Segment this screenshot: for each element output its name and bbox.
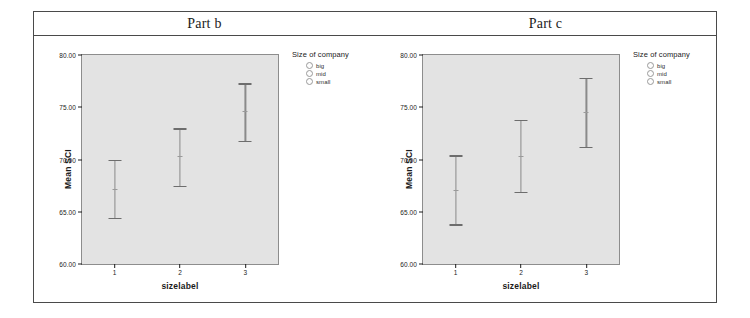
- error-bar-upper-cap: [239, 83, 252, 84]
- error-bar-lower-cap: [174, 186, 187, 187]
- plot-area-b: 60.0065.0070.0075.0080.00123: [81, 54, 279, 265]
- y-axis-tick-mark: [78, 159, 82, 160]
- legend-item-mid[interactable]: mid: [306, 70, 349, 77]
- legend-item-mid[interactable]: mid: [647, 70, 690, 77]
- y-axis-tick: 60.00: [59, 261, 82, 268]
- chart-panel-part-c: Mean SCI 60.0065.0070.0075.0080.00123 si…: [375, 36, 716, 302]
- error-bar-upper-cap: [515, 120, 528, 121]
- y-axis-tick: 75.00: [400, 104, 423, 111]
- chart-title-part-b: Part b: [34, 12, 375, 35]
- error-bar-upper-cap: [449, 155, 462, 156]
- y-axis-tick-label: 65.00: [400, 208, 417, 215]
- x-axis-tick-label: 3: [585, 269, 589, 276]
- legend-label: big: [657, 63, 665, 69]
- legend-label: small: [657, 79, 672, 85]
- x-axis-tick-mark: [521, 264, 522, 268]
- error-bar-mean-marker: [178, 156, 183, 157]
- x-axis-tick-mark: [455, 264, 456, 268]
- chart-titles-bar: Part b Part c: [34, 12, 716, 36]
- y-axis-tick-label: 65.00: [59, 208, 76, 215]
- x-axis-tick: 3: [585, 264, 589, 276]
- legend-label: small: [316, 79, 331, 85]
- error-bar-lower-cap: [580, 147, 593, 148]
- legend-b: Size of company big mid small: [292, 50, 349, 86]
- x-axis-tick-mark: [180, 264, 181, 268]
- error-bar: [238, 55, 252, 264]
- x-axis-tick-label: 2: [178, 269, 182, 276]
- error-bar: [108, 55, 122, 264]
- charts-row: Mean SCI 60.0065.0070.0075.0080.00123 si…: [34, 36, 716, 302]
- y-axis-tick-label: 80.00: [59, 52, 76, 59]
- error-bar: [449, 55, 463, 264]
- legend-label: big: [316, 63, 324, 69]
- y-axis-tick-label: 70.00: [59, 156, 76, 163]
- y-axis-tick-label: 60.00: [59, 261, 76, 268]
- error-bar-upper-cap: [174, 128, 187, 129]
- errorbar-chart-b: Mean SCI 60.0065.0070.0075.0080.00123 si…: [34, 36, 375, 302]
- legend-title: Size of company: [633, 50, 690, 59]
- error-bar-lower-cap: [108, 218, 121, 219]
- y-axis-tick-mark: [419, 211, 423, 212]
- y-axis-tick-mark: [419, 264, 423, 265]
- y-axis-tick-label: 70.00: [400, 156, 417, 163]
- error-bar-upper-cap: [580, 78, 593, 79]
- x-axis-tick-label: 1: [113, 269, 117, 276]
- y-axis-tick: 65.00: [400, 208, 423, 215]
- legend-item-big[interactable]: big: [306, 62, 349, 69]
- radio-icon: [306, 62, 313, 69]
- y-axis-tick: 70.00: [400, 156, 423, 163]
- chart-title-part-c: Part c: [375, 12, 716, 35]
- error-bar-lower-cap: [239, 141, 252, 142]
- error-bar-upper-cap: [108, 160, 121, 161]
- y-axis-tick-mark: [78, 107, 82, 108]
- plot-area-c: 60.0065.0070.0075.0080.00123: [422, 54, 620, 265]
- x-axis-tick: 3: [244, 264, 248, 276]
- legend-item-big[interactable]: big: [647, 62, 690, 69]
- x-axis-tick-label: 3: [244, 269, 248, 276]
- x-axis-tick-mark: [245, 264, 246, 268]
- error-bar-mean-marker: [519, 156, 524, 157]
- chart-panel-part-b: Mean SCI 60.0065.0070.0075.0080.00123 si…: [34, 36, 375, 302]
- y-axis-tick: 70.00: [59, 156, 82, 163]
- y-axis-tick-mark: [419, 107, 423, 108]
- legend-item-small[interactable]: small: [647, 78, 690, 85]
- error-bar: [514, 55, 528, 264]
- radio-icon: [306, 70, 313, 77]
- legend-items: big mid small: [292, 62, 349, 85]
- y-axis-tick-label: 75.00: [400, 104, 417, 111]
- error-bar-mean-marker: [243, 111, 248, 112]
- x-axis-tick: 2: [178, 264, 182, 276]
- y-axis-tick: 60.00: [400, 261, 423, 268]
- radio-icon: [306, 78, 313, 85]
- x-axis-tick-mark: [114, 264, 115, 268]
- legend-c: Size of company big mid small: [633, 50, 690, 86]
- errorbar-chart-c: Mean SCI 60.0065.0070.0075.0080.00123 si…: [375, 36, 716, 302]
- error-bar-mean-marker: [112, 189, 117, 190]
- error-bar-lower-cap: [449, 224, 462, 225]
- x-axis-title: sizelabel: [422, 281, 620, 291]
- y-axis-tick: 75.00: [59, 104, 82, 111]
- x-axis-tick-label: 1: [454, 269, 458, 276]
- error-bar-mean-marker: [584, 112, 589, 113]
- y-axis-tick-mark: [78, 55, 82, 56]
- legend-item-small[interactable]: small: [306, 78, 349, 85]
- x-axis-title: sizelabel: [81, 281, 279, 291]
- error-bar: [579, 55, 593, 264]
- error-bar-lower-cap: [515, 192, 528, 193]
- spss-output-frame: Part b Part c Mean SCI 60.0065.0070.0075…: [33, 11, 717, 303]
- y-axis-tick-mark: [419, 159, 423, 160]
- y-axis-tick-mark: [419, 55, 423, 56]
- radio-icon: [647, 78, 654, 85]
- y-axis-tick: 65.00: [59, 208, 82, 215]
- y-axis-tick-label: 75.00: [59, 104, 76, 111]
- x-axis-tick: 2: [519, 264, 523, 276]
- legend-label: mid: [657, 71, 667, 77]
- legend-items: big mid small: [633, 62, 690, 85]
- x-axis-tick-label: 2: [519, 269, 523, 276]
- error-bar-mean-marker: [453, 190, 458, 191]
- x-axis-tick: 1: [454, 264, 458, 276]
- x-axis-tick-mark: [586, 264, 587, 268]
- error-bar: [173, 55, 187, 264]
- y-axis-tick: 80.00: [400, 52, 423, 59]
- legend-label: mid: [316, 71, 326, 77]
